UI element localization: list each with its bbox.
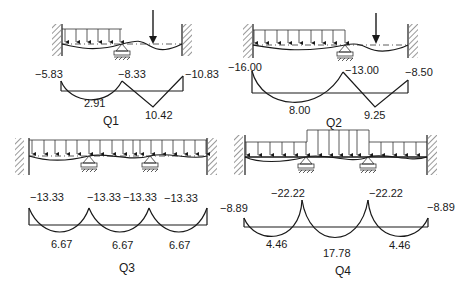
moment-label-support2: −13.33 <box>123 191 157 203</box>
moment-label-right: −13.33 <box>164 192 198 204</box>
q1-beam <box>52 10 192 60</box>
fixed-support-right-icon <box>183 24 192 56</box>
moment-label-left: −16.00 <box>228 61 262 73</box>
moment-label-span3: 4.46 <box>389 239 410 251</box>
moment-label-left: −13.33 <box>30 191 64 203</box>
moment-label-right: −10.83 <box>185 68 219 80</box>
point-load-arrow-icon <box>372 13 380 44</box>
fixed-support-right-icon <box>428 135 437 175</box>
moment-label-right: −8.50 <box>405 66 433 78</box>
moment-label-span2: 9.25 <box>364 109 385 121</box>
panel-title-q1: Q1 <box>103 114 119 128</box>
moment-label-right: −8.89 <box>427 201 455 213</box>
moment-label-support: −13.00 <box>345 64 379 76</box>
fixed-support-left-icon <box>52 24 61 56</box>
roller-support-icon <box>298 157 314 173</box>
fixed-support-left-icon <box>234 135 243 175</box>
q4-moment-diagram <box>244 200 428 238</box>
moment-label-support1: −22.22 <box>271 187 305 199</box>
panel-q2: −16.00 −13.00 −8.50 8.00 9.25 Q2 <box>228 13 433 130</box>
roller-support-icon <box>142 156 158 172</box>
panel-q4: −8.89 −22.22 −22.22 −8.89 4.46 17.78 4.4… <box>220 130 455 278</box>
moment-label-span1: 2.91 <box>84 97 105 109</box>
moment-label-span1: 8.00 <box>289 104 310 116</box>
distributed-load-icon <box>29 140 207 154</box>
moment-label-support: −8.33 <box>118 68 146 80</box>
fixed-support-right-icon <box>409 24 418 58</box>
distributed-load-icon <box>62 29 122 42</box>
roller-support-icon <box>337 45 353 61</box>
moment-label-span2: 17.78 <box>323 247 351 259</box>
moment-label-support2: −22.22 <box>369 187 403 199</box>
point-load-arrow-icon <box>149 10 157 44</box>
q4-beam <box>234 130 437 175</box>
moment-label-span1: 4.46 <box>266 238 287 250</box>
distributed-load-icon <box>245 130 427 155</box>
moment-label-span3: 6.67 <box>169 239 190 251</box>
roller-support-icon <box>81 156 97 172</box>
panel-title-q4: Q4 <box>335 264 351 278</box>
panel-q3: −13.33 −13.33 −13.33 −13.33 6.67 6.67 6.… <box>15 138 217 275</box>
deflected-shape <box>29 155 207 161</box>
moment-label-span2: 6.67 <box>112 239 133 251</box>
q3-beam <box>15 138 217 175</box>
fixed-support-left-icon <box>15 138 24 175</box>
beam-diagrams: −5.83 −8.33 −10.83 2.91 10.42 Q1 <box>0 0 464 291</box>
panel-title-q3: Q3 <box>119 261 135 275</box>
q2-moment-diagram <box>252 71 408 107</box>
moment-label-span2: 10.42 <box>145 109 173 121</box>
fixed-support-left-icon <box>243 24 252 58</box>
moment-label-span1: 6.67 <box>51 238 72 250</box>
distributed-load-icon <box>253 30 345 43</box>
q3-moment-diagram <box>29 208 207 232</box>
deflected-shape <box>62 41 182 49</box>
moment-label-support1: −13.33 <box>87 191 121 203</box>
moment-label-left: −5.83 <box>35 68 63 80</box>
roller-support-icon <box>114 44 130 60</box>
panel-title-q2: Q2 <box>326 116 342 130</box>
q2-beam <box>243 13 418 61</box>
panel-q1: −5.83 −8.33 −10.83 2.91 10.42 Q1 <box>35 10 219 128</box>
q1-moment-diagram <box>61 76 183 107</box>
fixed-support-right-icon <box>208 138 217 175</box>
moment-label-left: −8.89 <box>220 202 248 214</box>
